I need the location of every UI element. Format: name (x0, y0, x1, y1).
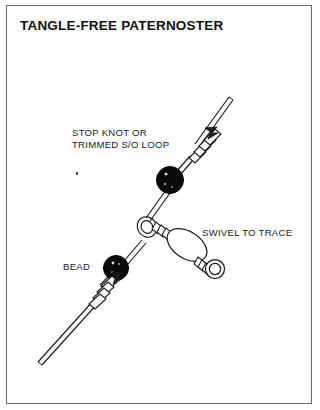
upper-bead (157, 167, 184, 194)
scan-speck-artifact (76, 172, 78, 175)
label-stop-knot-line2: TRIMMED S/O LOOP (72, 139, 169, 151)
label-stop-knot: STOP KNOT OR TRIMMED S/O LOOP (72, 127, 169, 151)
label-swivel-to-trace: SWIVEL TO TRACE (202, 227, 292, 239)
label-bead: BEAD (63, 261, 90, 273)
paternoster-rig-diagram (0, 0, 320, 410)
swivel-bottom-ring (206, 260, 225, 279)
label-stop-knot-line1: STOP KNOT OR (72, 127, 169, 139)
